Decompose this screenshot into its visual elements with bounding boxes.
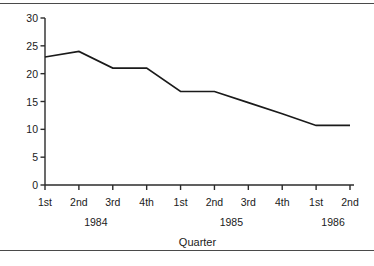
y-tick-label: 20 <box>14 68 38 79</box>
x-tick-label: 2nd <box>341 197 359 208</box>
chart-axes <box>45 18 354 185</box>
line-chart-plot <box>0 0 374 266</box>
y-tick-label: 10 <box>14 124 38 135</box>
y-tick-label: 0 <box>14 180 38 191</box>
x-tick-label: 2nd <box>70 197 88 208</box>
year-group-label: 1986 <box>321 217 344 228</box>
chart-tick-marks <box>41 18 351 190</box>
x-tick-label: 4th <box>139 197 154 208</box>
x-tick-label: 3rd <box>105 197 120 208</box>
x-tick-label: 1st <box>309 197 323 208</box>
x-tick-label: 1st <box>174 197 188 208</box>
year-group-label: 1985 <box>220 217 243 228</box>
y-tick-label: 5 <box>14 152 38 163</box>
year-group-label: 1984 <box>84 217 107 228</box>
y-tick-label: 30 <box>14 13 38 24</box>
x-axis-title: Quarter <box>179 237 216 248</box>
chart-figure: 051015202530 1st2nd3rd4th1st2nd3rd4th1st… <box>0 0 374 266</box>
data-series-line <box>45 51 350 125</box>
chart-svg <box>0 0 374 266</box>
x-tick-label: 3rd <box>241 197 256 208</box>
x-tick-label: 2nd <box>206 197 224 208</box>
x-tick-label: 1st <box>38 197 52 208</box>
y-tick-label: 15 <box>14 96 38 107</box>
y-tick-label: 25 <box>14 41 38 52</box>
x-tick-label: 4th <box>275 197 290 208</box>
